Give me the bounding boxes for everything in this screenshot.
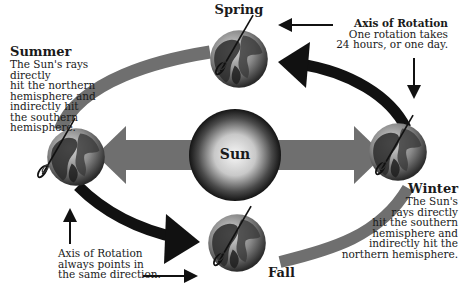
axis-rotation-title: Axis of Rotation (300, 18, 448, 29)
pointer-arrow-axis-bottom-up (63, 208, 77, 244)
season-title-spring: Spring (208, 3, 270, 17)
summer-label: Summer The Sun's rays directly hit the n… (10, 45, 122, 133)
earth-spring (210, 15, 268, 88)
earth-winter (369, 115, 427, 181)
season-title-fall: Fall (268, 266, 295, 280)
axis-rotation-top-label: Axis of Rotation One rotation takes 24 h… (300, 18, 448, 50)
summer-description: The Sun's rays directly hit the northern… (10, 59, 122, 133)
pointer-arrow-axis-top-down (407, 58, 421, 99)
sun-label: Sun (205, 147, 265, 161)
orbit-arrow-spring-to-winter (278, 42, 406, 128)
axis-rotation-bottom-label: Axis of Rotation always points in the sa… (58, 248, 178, 280)
season-title-summer: Summer (10, 45, 122, 59)
season-title-winter: Winter (330, 182, 458, 196)
winter-label: Winter The Sun's rays directly hit the s… (330, 182, 458, 259)
winter-description: The Sun's rays directly hit the southern… (330, 196, 458, 259)
earth-fall (208, 206, 266, 272)
